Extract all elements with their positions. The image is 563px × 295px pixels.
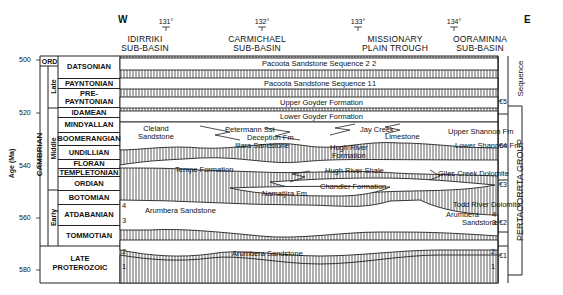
east-label: E xyxy=(524,14,531,25)
longitude-131: 131° xyxy=(156,18,176,25)
epoch-late: Late xyxy=(50,72,57,102)
stage-ordian: ORDIAN xyxy=(58,177,120,191)
longitude-133: 133° xyxy=(348,18,368,25)
region-missionary-plain: MISSIONARYPLAIN TROUGH xyxy=(355,35,435,53)
tick-500: 500 xyxy=(19,56,31,63)
unit-e3: 3 xyxy=(492,219,496,227)
unit-seq2: 2 xyxy=(372,60,376,68)
unit-w3: 3 xyxy=(122,217,126,225)
formation-namatjira: Namatjira Fm xyxy=(262,190,307,198)
formation-arumbera-lower: Arumbera Sandstone xyxy=(232,250,303,258)
stage-tommotian: TOMMOTIAN xyxy=(58,226,120,246)
formation-limestone: Limestone xyxy=(385,133,420,141)
stage-undillian: UNDILLIAN xyxy=(58,146,120,160)
period-late-proterozoic: LATEPROTEROZOIC xyxy=(40,254,120,272)
group-label: PERTAOORRTA GROUP xyxy=(515,130,525,250)
epoch-early: Early xyxy=(50,203,57,233)
stage-botomian: BOTOMIAN xyxy=(58,191,120,205)
sequence-c1: €1 xyxy=(499,252,507,260)
formation-lower-goyder: Lower Goyder Formation xyxy=(280,113,363,121)
unit-seq1: 1 xyxy=(372,80,376,88)
formation-chandler: Chandler Formation xyxy=(320,183,386,191)
formation-todd-river: Todd River Dolomite xyxy=(453,201,521,209)
unit-e2: 2 xyxy=(491,248,495,256)
formation-pacoota-2: Pacoota Sandstone Sequence 2 xyxy=(262,60,370,68)
sequence-c2: €2 xyxy=(499,219,507,227)
stage-templetonian: TEMPLETONIAN xyxy=(58,169,120,177)
period-ord: ORD xyxy=(41,58,58,65)
unit-e1: 1 xyxy=(491,263,495,271)
unit-w1: 1 xyxy=(122,263,126,271)
formation-pacoota-1: Pacoota Sandstone Sequence 1 xyxy=(264,80,372,88)
formation-lower-shannon: Lower Shannon Fm xyxy=(455,142,520,150)
region-carmichael: CARMICHAELSUB-BASIN xyxy=(222,35,292,53)
stage-pre-payntonian: PRE-PAYNTONIAN xyxy=(58,89,120,108)
formation-cleland: ClelandSandstone xyxy=(138,125,174,141)
region-idirriki: IDIRRIKISUB-BASIN xyxy=(110,35,180,53)
sequence-c4: €4 xyxy=(499,142,507,150)
stage-atdabanian: ATDABANIAN xyxy=(58,205,120,226)
region-ooraminna: OORAMINNASUB-BASIN xyxy=(445,35,515,53)
stage-payntonian: PAYNTONIAN xyxy=(58,79,120,89)
tick-540: 540 xyxy=(19,162,31,169)
sequence-c5: €5 xyxy=(499,98,507,106)
tick-560: 560 xyxy=(19,214,31,221)
formation-upper-shannon: Upper Shannon Fm xyxy=(448,128,513,136)
tick-580: 580 xyxy=(19,266,31,273)
axis-label: Age (Ma) xyxy=(8,139,15,189)
formation-hugh-river-shale: Hugh River Shale xyxy=(325,167,384,175)
unit-w4: 4 xyxy=(122,202,126,210)
formation-arumbera-upper: Arumbera Sandstone xyxy=(145,207,216,215)
stage-mindyallan: MINDYALLAN xyxy=(58,118,120,133)
west-label: W xyxy=(118,14,127,25)
stage-boomerangian: BOOMERANGIAN xyxy=(58,133,120,146)
formation-tempe: Tempe Formation xyxy=(175,166,233,174)
period-cambrian: CAMBRIAN xyxy=(35,130,44,180)
stage-idamean: IDAMEAN xyxy=(58,108,120,118)
longitude-134: 134° xyxy=(444,18,464,25)
stage-datsonian: DATSONIAN xyxy=(58,56,120,79)
sequence-label: Sequence xyxy=(516,39,525,119)
formation-hugh-river: Hugh RiverFormation xyxy=(330,144,368,160)
epoch-middle: Middle xyxy=(50,129,57,169)
formation-upper-goyder: Upper Goyder Formation xyxy=(280,99,363,107)
formation-illara: Illara Sandstone xyxy=(235,142,289,150)
sequence-c3: €3 xyxy=(499,181,507,189)
unit-w2: 2 xyxy=(122,248,126,256)
longitude-132: 132° xyxy=(252,18,272,25)
formation-giles-creek: Giles Creek Dolomite xyxy=(438,170,509,178)
tick-520: 520 xyxy=(19,109,31,116)
